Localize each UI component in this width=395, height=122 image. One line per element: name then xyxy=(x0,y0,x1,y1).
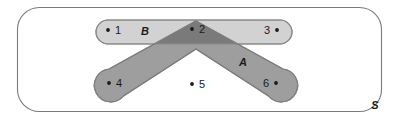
point-dot-2 xyxy=(190,27,194,31)
point-label-5: 5 xyxy=(199,78,205,90)
universal-set-label: S xyxy=(371,99,379,111)
set-b-label: B xyxy=(141,25,149,37)
point-label-1: 1 xyxy=(115,24,121,36)
point-dot-1 xyxy=(106,28,110,32)
point-label-6: 6 xyxy=(263,77,269,89)
point-label-3: 3 xyxy=(264,24,270,36)
point-dot-5 xyxy=(190,82,194,86)
point-dot-3 xyxy=(275,28,279,32)
point-label-2: 2 xyxy=(199,23,205,35)
point-dot-6 xyxy=(274,81,278,85)
point-dot-4 xyxy=(107,81,111,85)
set-a-label: A xyxy=(238,56,247,68)
venn-diagram-svg: B A S 1 2 3 4 5 6 xyxy=(0,0,395,122)
point-label-4: 4 xyxy=(116,77,122,89)
venn-diagram-canvas: B A S 1 2 3 4 5 6 xyxy=(0,0,395,122)
